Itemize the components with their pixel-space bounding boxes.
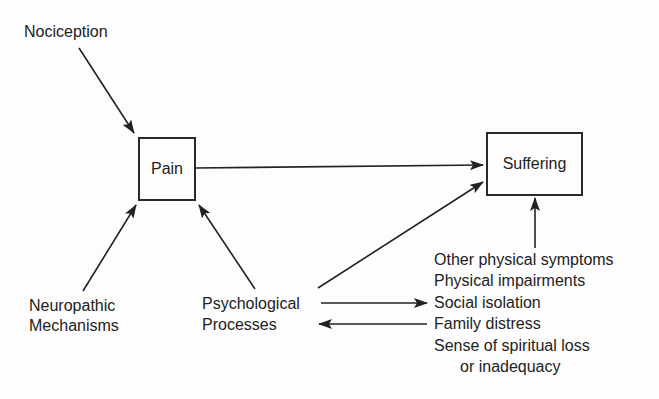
arrow-neuropathic-to-pain [83, 205, 136, 291]
factor-other-physical-symptoms: Other physical symptoms [434, 249, 614, 270]
arrow-nociception-to-pain [79, 48, 134, 133]
node-neuropathic-line2: Mechanisms [29, 316, 119, 336]
node-nociception: Nociception [24, 22, 108, 42]
node-suffering-label: Suffering [503, 155, 567, 173]
arrow-psychological-to-pain [199, 205, 255, 289]
factors-list: Other physical symptoms Physical impairm… [434, 249, 614, 377]
node-neuropathic-line1: Neuropathic [29, 296, 115, 316]
node-psychological-line1: Psychological [202, 294, 300, 314]
factor-social-isolation: Social isolation [434, 292, 614, 313]
factor-inadequacy: or inadequacy [434, 356, 614, 377]
node-suffering-box: Suffering [486, 132, 583, 196]
node-pain-box: Pain [138, 137, 196, 201]
diagram-canvas: Nociception Pain Suffering Neuropathic M… [0, 0, 659, 399]
factor-spiritual-loss: Sense of spiritual loss [434, 335, 614, 356]
factor-physical-impairments: Physical impairments [434, 270, 614, 291]
node-pain-label: Pain [151, 160, 183, 178]
node-psychological-line2: Processes [202, 315, 277, 335]
arrow-pain-to-suffering [195, 165, 483, 168]
factor-family-distress: Family distress [434, 313, 614, 334]
